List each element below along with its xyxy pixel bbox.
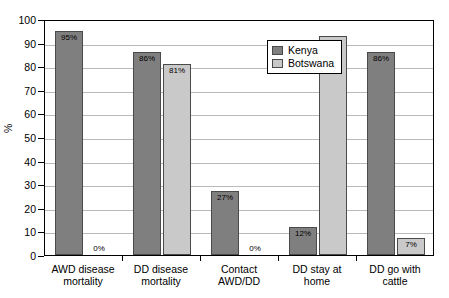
x-axis-tick [122,256,123,261]
bar-value-label: 0% [241,245,269,253]
legend-label-kenya: Kenya [288,45,318,56]
y-axis-tick-label: 0 [30,251,36,261]
x-axis-category-label: AWD disease mortality [44,263,122,287]
y-axis-tick-label: 30 [24,180,36,190]
y-axis-tick-label: 50 [24,133,36,143]
gridline [45,45,433,46]
bar-value-label: 81% [163,67,191,75]
plot-area: 95%0%86%81%27%0%12%93%86%7% Kenya Botswa… [44,20,434,256]
y-axis: 1009080706050403020100 [0,0,44,298]
legend-item-botswana: Botswana [272,57,334,70]
y-axis-tick-label: 60 [24,109,36,119]
bar-value-label: 86% [367,55,395,63]
x-axis-category-label: DD stay at home [278,263,356,287]
y-axis-tick [38,256,44,257]
legend-swatch-botswana [272,59,283,68]
y-axis-tick-label: 70 [24,86,36,96]
y-axis-tick-label: 10 [24,227,36,237]
bar-value-label: 27% [211,194,239,202]
x-axis-category-label: DD disease mortality [122,263,200,287]
x-axis-category-label: DD go with cattle [356,263,434,287]
legend-item-kenya: Kenya [272,44,334,57]
y-axis-tick-label: 40 [24,157,36,167]
y-axis-tick-label: 20 [24,204,36,214]
x-axis-category-label: Contact AWD/DD [200,263,278,287]
bar-value-label: 95% [55,34,83,42]
bar-kenya-4 [367,52,395,255]
x-axis-tick [356,256,357,261]
bar-kenya-0 [55,31,83,255]
y-axis-tick-label: 90 [24,39,36,49]
legend: Kenya Botswana [267,40,342,74]
bar-kenya-1 [133,52,161,255]
y-axis-tick-label: 80 [24,62,36,72]
bar-value-label: 12% [289,230,317,238]
bar-value-label: 0% [85,245,113,253]
chart-container: 1009080706050403020100 % 95%0%86%81%27%0… [0,0,449,298]
y-axis-tick-label: 100 [18,15,36,25]
x-axis-tick [278,256,279,261]
x-axis-tick [200,256,201,261]
legend-swatch-kenya [272,46,283,55]
legend-label-botswana: Botswana [288,58,334,69]
bar-value-label: 86% [133,55,161,63]
bar-value-label: 7% [397,241,425,249]
bar-botswana-1 [163,64,191,255]
y-axis-title: % [2,124,14,133]
